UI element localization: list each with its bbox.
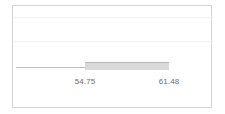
- plot-frame: 54.75 61.48: [12, 5, 212, 108]
- tick-label-left: 54.75: [65, 77, 105, 87]
- gridline-middle: [13, 41, 213, 42]
- whisker-line-left: [16, 67, 87, 68]
- tick-label-right: 61.48: [149, 77, 189, 87]
- chart-screenshot: 54.75 61.48: [0, 0, 225, 114]
- gridline-upper: [13, 17, 213, 18]
- interval-bar[interactable]: [85, 62, 169, 70]
